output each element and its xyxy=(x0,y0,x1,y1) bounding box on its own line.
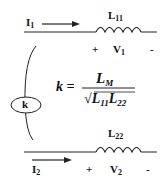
v2-minus: - xyxy=(146,164,150,175)
l22-label: L22 xyxy=(108,128,123,141)
i1-label: I1 xyxy=(26,17,34,30)
inductor-l11-coil xyxy=(96,28,141,33)
equation-denominator: √L11L22 xyxy=(84,91,126,108)
v2-label: V2 xyxy=(110,164,122,177)
v1-label: V1 xyxy=(113,44,125,57)
coupling-curve xyxy=(25,46,36,140)
v1-plus: + xyxy=(92,44,98,55)
equation-numerator: LM xyxy=(96,70,113,88)
i2-arrowhead-icon xyxy=(64,157,72,163)
i2-label: I2 xyxy=(32,164,40,177)
v2-plus: + xyxy=(86,164,92,175)
k-symbol: k xyxy=(22,99,28,110)
equation-lhs: k = xyxy=(56,79,74,95)
inductor-l22-coil xyxy=(96,148,141,153)
l11-label: L11 xyxy=(108,10,123,23)
i1-arrowhead-icon xyxy=(72,21,80,27)
v1-minus: - xyxy=(150,44,154,55)
